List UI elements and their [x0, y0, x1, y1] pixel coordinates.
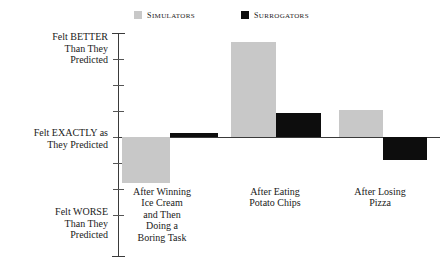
category-label-eating-potato-chips: After Eating Potato Chips [225, 186, 325, 209]
category-label-line: Doing a [112, 220, 212, 231]
category-label-line: After Losing [330, 186, 430, 197]
category-label-winning-ice-cream: After Winning Ice Cream and Then Doing a… [112, 186, 212, 243]
y-axis-label-better: Felt BETTER Than They Predicted [4, 31, 108, 66]
category-label-line: Ice Cream [112, 197, 212, 208]
y-axis-label-exactly: Felt EXACTLY as They Predicted [4, 127, 108, 150]
category-label-line: and Then [112, 209, 212, 220]
y-axis-label-worse-line-2: Than They [4, 218, 108, 230]
y-axis-label-better-line-2: Than They [4, 43, 108, 55]
y-axis-label-better-line-3: Predicted [4, 54, 108, 66]
y-axis-label-worse: Felt WORSE Than They Predicted [4, 206, 108, 241]
bar-surrogators-eating-potato-chips [276, 113, 321, 137]
chart-container: Simulators Surrogators Felt BETTER Than … [0, 0, 443, 269]
y-axis-label-exactly-line-2: They Predicted [4, 139, 108, 151]
bar-simulators-winning-ice-cream [122, 137, 170, 183]
bar-surrogators-losing-pizza [383, 137, 427, 160]
y-axis-label-better-line-1: Felt BETTER [4, 31, 108, 43]
y-axis-label-exactly-line-1: Felt EXACTLY as [4, 127, 108, 139]
y-axis-label-worse-line-3: Predicted [4, 229, 108, 241]
category-label-line: Potato Chips [225, 197, 325, 208]
y-axis-label-worse-line-1: Felt WORSE [4, 206, 108, 218]
bar-simulators-eating-potato-chips [231, 42, 276, 137]
category-label-line: Pizza [330, 197, 430, 208]
bar-simulators-losing-pizza [339, 110, 383, 137]
category-label-line: Boring Task [112, 232, 212, 243]
category-label-line: After Winning [112, 186, 212, 197]
bar-surrogators-winning-ice-cream [170, 133, 218, 137]
category-label-line: After Eating [225, 186, 325, 197]
category-label-losing-pizza: After Losing Pizza [330, 186, 430, 209]
